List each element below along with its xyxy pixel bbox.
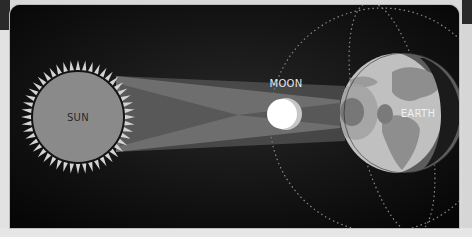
eclipse-diagram: SUN EARTH MOON xyxy=(10,5,459,228)
moon-label: MOON xyxy=(269,78,302,89)
moon-icon xyxy=(267,98,302,130)
left-frame-edge xyxy=(0,0,10,237)
bottom-frame-band xyxy=(0,228,472,237)
sun-label: SUN xyxy=(67,112,89,123)
earth-label: EARTH xyxy=(401,108,436,119)
right-frame-edge xyxy=(462,0,472,237)
eclipse-diagram-panel: SUN EARTH MOON xyxy=(10,5,459,228)
